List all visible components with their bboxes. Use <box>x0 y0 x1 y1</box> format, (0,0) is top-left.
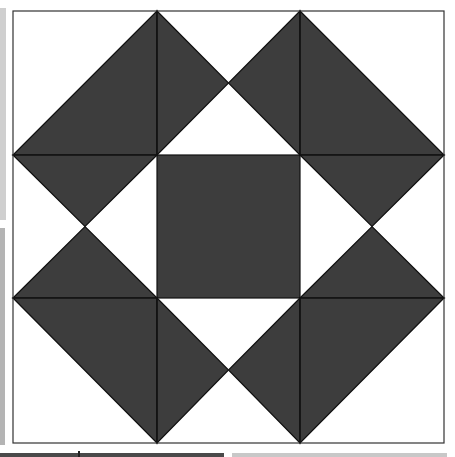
tri-mid-left-top <box>13 155 157 227</box>
quilt-block <box>0 0 455 457</box>
tri-top-left <box>13 11 157 155</box>
tri-mid-right-top <box>300 155 444 227</box>
tri-bottom-left <box>13 298 157 443</box>
tri-bottom-right <box>300 298 444 443</box>
tri-mid-left-bottom <box>13 227 157 299</box>
tri-top-mid-left <box>157 11 229 155</box>
tri-top-mid-right <box>229 11 301 155</box>
tri-mid-right-bottom <box>300 227 444 299</box>
tri-bottom-mid-left <box>157 298 229 443</box>
tri-top-right <box>300 11 444 155</box>
center-square <box>157 155 300 298</box>
tri-bottom-mid-right <box>229 298 301 443</box>
